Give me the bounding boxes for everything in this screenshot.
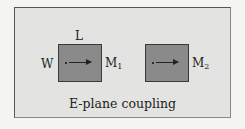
length-label: L [75,30,83,42]
width-label: W [41,58,53,70]
arrow-right-icon [156,62,178,63]
origin-dot-icon [152,62,154,64]
m2-label: M2 [192,57,209,73]
m2-label-main: M [192,56,204,70]
origin-dot-icon [65,62,67,64]
m2-label-sub: 2 [204,62,209,71]
resonator-m2 [145,44,189,82]
arrow-right-icon [69,62,91,63]
m1-label: M1 [105,57,122,73]
diagram-caption: E-plane coupling [0,97,245,111]
resonator-m1 [58,44,102,82]
m1-label-main: M [105,56,117,70]
m1-label-sub: 1 [117,62,122,71]
